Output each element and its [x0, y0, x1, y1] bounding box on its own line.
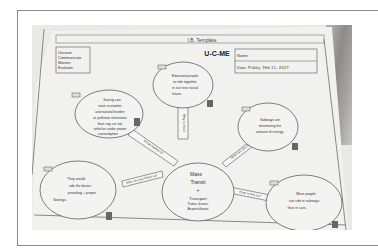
connector-top-text: Why is this?: [182, 114, 186, 132]
bubble-top-line: in our less social: [172, 86, 198, 90]
center-line: Airports/boats: [188, 207, 209, 211]
bubble-upper-left-line: Saving can: [103, 98, 120, 102]
bubble-upper-right-line: minimizing the: [259, 124, 281, 128]
date-value: Friday, Feb 11, 2017: [248, 65, 289, 70]
bubble-lower-left-line: They would: [67, 177, 85, 181]
bubble-upper-left-line: and natural burden: [95, 110, 124, 114]
header-bar: I.B. Template: [187, 37, 216, 43]
bubble-upper-right-line: amount of energy.: [256, 130, 284, 134]
center-line: +: [197, 187, 200, 193]
bubble-lower-left-line: Savings.: [53, 198, 66, 202]
bubble-lower-left-line: providing + proper: [68, 191, 97, 195]
bubble-upper-right-line: Subways are: [260, 118, 280, 122]
bubble-top-line: to ride together: [173, 80, 197, 84]
bubble-upper-left-line: than say car ots: [98, 122, 123, 126]
worksheet-paper: I.B. Template Uncover Communicate Monito…: [32, 25, 352, 230]
name-label: Name:: [237, 53, 249, 58]
bubble-lower-right-line: than in cars.: [287, 206, 306, 210]
label-evaluate: Evaluate: [58, 66, 73, 70]
center-line: Mass: [190, 171, 202, 177]
worksheet-title: U-C-ME: [204, 50, 230, 57]
bubble-top-line: future.: [172, 92, 182, 96]
bubble-upper-left-line: vehicles under power: [93, 127, 127, 131]
center-line: Transit: [190, 179, 206, 185]
bubble-lower-right-line: can ride in subways: [289, 199, 320, 203]
bubble-top-line: Educated people: [172, 74, 198, 78]
worksheet-photo: I.B. Template Uncover Communicate Monito…: [32, 25, 352, 230]
bubble-upper-left-line: consumption: [98, 132, 118, 136]
label-uncover: Uncover: [58, 51, 73, 55]
bubble-upper-left-line: or pollution emissions: [93, 116, 127, 120]
bubble-lower-right-line: More people: [296, 192, 316, 196]
center-line: Trains, buses,: [187, 202, 208, 206]
center-line: Transport: [189, 196, 208, 201]
date-label: Date:: [237, 65, 247, 70]
label-communicate: Communicate: [58, 56, 81, 60]
label-monitor: Monitor: [58, 61, 71, 65]
bubble-lower-left-line: ride the buses: [69, 184, 91, 188]
bubble-upper-left-line: ease economic: [98, 104, 122, 108]
